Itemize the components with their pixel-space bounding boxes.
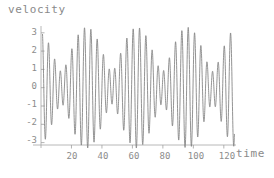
y-tick-label-minus-2: -2 (26, 117, 37, 127)
velocity-time-plot: velocity time 3 2 1 0 -1 -2 -3 20 40 60 … (0, 0, 274, 178)
x-tick-label-40: 40 (98, 151, 109, 161)
x-tick-label-100: 100 (188, 151, 204, 161)
x-ticks-group (71, 145, 223, 149)
y-tick-label-minus-3: -3 (26, 135, 37, 145)
y-tick-label-2: 2 (32, 45, 37, 55)
y-tick-label-1: 1 (32, 63, 37, 73)
y-tick-label-3: 3 (32, 27, 37, 37)
y-tick-label-minus-1: -1 (26, 99, 37, 109)
x-tick-label-60: 60 (129, 151, 140, 161)
x-tick-labels: 20 40 60 80 100 120 (67, 151, 236, 161)
x-tick-label-80: 80 (160, 151, 171, 161)
velocity-data-curve (43, 27, 235, 148)
chart-canvas: 3 2 1 0 -1 -2 -3 20 40 60 80 100 120 (0, 0, 274, 178)
x-tick-label-120: 120 (219, 151, 235, 161)
y-tick-labels: 3 2 1 0 -1 -2 -3 (26, 27, 37, 145)
y-tick-label-0: 0 (32, 81, 37, 91)
x-tick-label-20: 20 (67, 151, 78, 161)
